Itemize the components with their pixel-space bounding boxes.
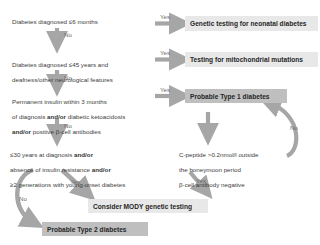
decision-q2: Diabetes diagnosed ≤45 years and deafnes…	[12, 53, 160, 91]
result-probable-type-2-diabetes[interactable]: Probable Type 2 diabetes	[42, 222, 148, 236]
edge-label-q4-no: No	[19, 195, 27, 202]
decision-q5-line1: C-peptide >0.2nmol/l outside	[179, 151, 284, 159]
decision-q3-line1: Permanent insulin within 3 months	[12, 98, 164, 106]
edge-label-q1-yes: Yes	[160, 13, 170, 20]
decision-q4: ≤30 years at diagnosis and/or absence of…	[10, 143, 165, 196]
decision-q5-line2: the honeymoon period	[179, 166, 284, 174]
result-testing-mitochondrial-mutations[interactable]: Testing for mitochondrial mutations	[185, 52, 318, 67]
decision-q3-line3: and/or positive β-cell antibodies	[12, 128, 164, 136]
decision-q3-line2: of diagnosis and/or diabetic ketoacidosi…	[12, 113, 164, 121]
decision-q5: C-peptide >0.2nmol/l outside the honeymo…	[179, 143, 284, 196]
decision-q3: Permanent insulin within 3 months of dia…	[12, 90, 164, 143]
edge-label-q3-no: No	[64, 122, 72, 129]
decision-q4-line2: absence of insulin resistance and/or	[10, 166, 165, 174]
edge-label-q5-no: No	[290, 124, 298, 131]
decision-q2-line1: Diabetes diagnosed ≤45 years and	[12, 61, 160, 69]
decision-q4-line3: ≥2 generations with young-onset diabetes	[10, 181, 165, 189]
decision-q2-line2: deafness/other neurological features	[12, 76, 160, 84]
decision-q4-line1: ≤30 years at diagnosis and/or	[10, 151, 165, 159]
decision-q5-line3: β-cell antibody negative	[179, 181, 284, 189]
result-genetic-testing-neonatal-diabetes[interactable]: Genetic testing for neonatal diabetes	[185, 16, 318, 31]
edge-label-q2-no: No	[64, 74, 72, 81]
edge-label-q5-yes: Yes	[196, 177, 206, 184]
result-consider-mody-genetic-testing[interactable]: Consider MODY genetic testing	[88, 199, 208, 213]
edge-label-q2-yes: Yes	[160, 49, 170, 56]
decision-q1: Diabetes diagnosed ≤6 months	[12, 18, 157, 26]
flowchart-canvas: Diabetes diagnosed ≤6 months Diabetes di…	[0, 0, 320, 245]
edge-label-q1-no: No	[64, 31, 72, 38]
result-probable-type-1-diabetes[interactable]: Probable Type 1 diabetes	[185, 89, 287, 103]
edge-label-q3-yes: Yes	[160, 86, 170, 93]
edge-label-q4-yes: Yes	[70, 178, 80, 185]
